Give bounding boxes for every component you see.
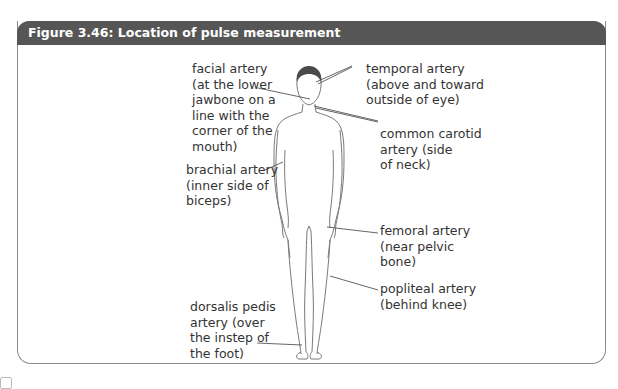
temporal-pointer-1 (316, 66, 352, 82)
temporal-pointer-2 (318, 67, 352, 84)
right-leg (311, 231, 330, 354)
temporal-artery-label: temporal artery (above and toward outsid… (366, 61, 484, 108)
carotid-pointer (314, 106, 378, 121)
page-corner-mark (0, 377, 12, 389)
common-carotid-artery-label: common carotid artery (side of neck) (380, 126, 482, 173)
right-foot (310, 352, 321, 359)
femoral-pointer (327, 227, 378, 233)
popliteal-pointer (330, 276, 378, 290)
left-leg (288, 231, 307, 354)
left-foot (297, 352, 308, 359)
hair (297, 66, 322, 82)
torso-outline (274, 112, 344, 258)
popliteal-artery-label: popliteal artery (behind knee) (380, 281, 476, 312)
facial-artery-label: facial artery (at the lower jawbone on a… (192, 61, 276, 154)
brachial-artery-label: brachial artery (inner side of biceps) (186, 162, 278, 209)
dorsalis-pedis-artery-label: dorsalis pedis artery (over the instep o… (190, 299, 276, 361)
femoral-artery-label: femoral artery (near pelvic bone) (380, 223, 470, 270)
